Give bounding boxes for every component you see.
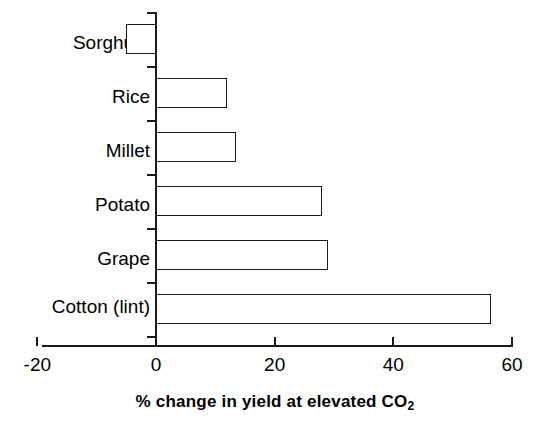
x-axis-tick <box>155 337 157 346</box>
bar-cotton-lint <box>156 294 491 324</box>
bar-rice <box>156 78 227 108</box>
y-axis-tick <box>147 66 156 68</box>
x-axis-line <box>42 345 513 347</box>
x-axis-title: % change in yield at elevated CO2 <box>0 392 550 412</box>
y-axis-tick <box>147 228 156 230</box>
category-label-millet: Millet <box>106 141 150 160</box>
plot-area: Sorghum Rice Millet Potato Grape Cotton … <box>0 0 550 433</box>
x-axis-tick <box>36 337 38 346</box>
y-axis-tick <box>147 12 156 14</box>
y-axis-tick <box>147 282 156 284</box>
x-axis-tick-label: 60 <box>472 355 550 374</box>
category-label-potato: Potato <box>95 195 150 214</box>
x-axis-tick-label: 0 <box>116 355 196 374</box>
y-axis-tick <box>147 120 156 122</box>
x-axis-title-subscript: 2 <box>408 399 415 413</box>
category-label-cotton-lint: Cotton (lint) <box>52 297 150 316</box>
category-label-rice: Rice <box>112 87 150 106</box>
x-axis-tick-label: 40 <box>353 355 433 374</box>
x-axis-title-text: % change in yield at elevated CO <box>136 392 408 411</box>
x-axis-tick <box>511 337 513 346</box>
y-axis-line <box>155 12 157 346</box>
x-axis-tick-label: -20 <box>0 355 77 374</box>
bar-potato <box>156 186 322 216</box>
bar-millet <box>156 132 236 162</box>
bar-sorghum <box>126 24 156 54</box>
x-axis-tick <box>392 337 394 346</box>
bar-chart: Sorghum Rice Millet Potato Grape Cotton … <box>0 0 550 433</box>
bar-grape <box>156 240 328 270</box>
x-axis-tick <box>274 337 276 346</box>
x-axis-tick-label: 20 <box>235 355 315 374</box>
category-label-grape: Grape <box>97 249 150 268</box>
y-axis-tick <box>147 174 156 176</box>
